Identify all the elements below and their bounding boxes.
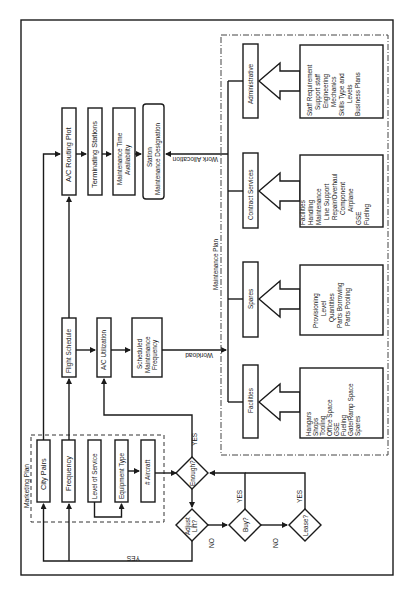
node-terminating-stations: Terminating Stations xyxy=(88,108,102,195)
svg-text:Scheduled: Scheduled xyxy=(136,338,143,369)
svg-text:Business Plans: Business Plans xyxy=(354,72,361,116)
svg-text:Terminating Stations: Terminating Stations xyxy=(90,121,99,188)
svg-text:Equipment Type: Equipment Type xyxy=(118,452,126,499)
node-level-of-service: Level of Service xyxy=(88,440,101,502)
svg-text:Level of Service: Level of Service xyxy=(91,453,98,499)
svg-text:Lift?: Lift? xyxy=(191,519,198,532)
svg-text:Contract Services: Contract Services xyxy=(247,170,254,220)
decision-lease: Lease? xyxy=(289,509,321,541)
node-ac-routing-plot: A/C Routing Plot xyxy=(62,108,76,195)
node-city-pairs: City Pairs xyxy=(37,440,50,502)
decision-adjust-lift: Adjust Lift? xyxy=(176,509,208,541)
svg-text:A/C Routing Plot: A/C Routing Plot xyxy=(64,127,73,182)
svg-text:Quantities: Quantities xyxy=(328,293,336,322)
yes-label-buy: YES xyxy=(236,489,243,503)
node-equipment-type: Equipment Type xyxy=(115,440,128,502)
svg-text:Staff Requirement: Staff Requirement xyxy=(306,64,314,116)
svg-text:Frequency: Frequency xyxy=(64,456,73,491)
svg-text:Maintenance Time: Maintenance Time xyxy=(116,132,123,185)
svg-text:GSE: GSE xyxy=(333,423,340,437)
decision-enough: Enough? xyxy=(176,457,208,489)
svg-text:Maintenance: Maintenance xyxy=(144,336,151,373)
svg-text:Spares: Spares xyxy=(354,416,362,436)
yes-label-lease: YES xyxy=(296,489,303,503)
workload-label: Workload xyxy=(185,352,213,359)
svg-text:Flight Schedule: Flight Schedule xyxy=(65,329,73,373)
svg-text:Facilities: Facilities xyxy=(299,200,306,225)
flow-diagram: Marketing Plan City Pairs Frequency Leve… xyxy=(0,0,412,593)
marketing-plan-label: Marketing Plan xyxy=(23,464,31,508)
node-flight-schedule: Flight Schedule xyxy=(62,318,76,377)
decision-buy: Buy? xyxy=(229,509,261,541)
svg-text:Airplane: Airplane xyxy=(347,188,355,212)
yes-label-adjust: YES xyxy=(126,555,140,562)
svg-text:Enough?: Enough? xyxy=(189,460,197,486)
node-frequency: Frequency xyxy=(62,440,75,502)
category-administrative: Administrative Staff Requirement Support… xyxy=(243,44,383,118)
node-ac-utilization: A/C Utilization xyxy=(97,318,111,377)
node-maintenance-time-availability: Maintenance Time Availability xyxy=(113,108,135,195)
svg-text:Level: Level xyxy=(320,301,327,316)
svg-text:GSE: GSE xyxy=(355,212,362,226)
node-scheduled-maintenance-frequency: Scheduled Maintenance Frequency xyxy=(132,318,162,377)
svg-text:City Pairs: City Pairs xyxy=(39,458,48,490)
svg-text:Buy?: Buy? xyxy=(242,517,250,532)
svg-text:Station: Station xyxy=(146,147,153,167)
category-contract-services: Contract Services Facilities Handling Ma… xyxy=(243,153,383,228)
no-label-buy: NO xyxy=(272,538,279,548)
svg-text:Lease?: Lease? xyxy=(302,515,309,536)
svg-text:Provisioning: Provisioning xyxy=(312,293,320,328)
maintenance-plan-label: Maintenance Plan xyxy=(212,238,219,290)
work-allocation-label: Work Allocation xyxy=(172,156,218,163)
svg-text:Facilities: Facilities xyxy=(247,388,254,413)
svg-text:Administrative: Administrative xyxy=(247,63,254,104)
svg-text:Repair/Overhaul: Repair/Overhaul xyxy=(331,173,339,220)
svg-text:Component: Component xyxy=(339,182,347,215)
svg-text:Maintenance Designation: Maintenance Designation xyxy=(154,122,162,195)
svg-text:Line Support: Line Support xyxy=(323,184,331,220)
svg-text:Spares: Spares xyxy=(247,289,255,309)
svg-text:Frequency: Frequency xyxy=(151,339,159,370)
no-label-adjust: NO xyxy=(208,538,215,548)
svg-text:Support staff: Support staff xyxy=(314,74,322,110)
node-station-maintenance-designation: Station Maintenance Designation xyxy=(143,104,164,199)
svg-text:Maintenance: Maintenance xyxy=(315,188,322,225)
svg-text:Availability: Availability xyxy=(124,144,132,175)
svg-text:Parts Pooling: Parts Pooling xyxy=(344,288,352,326)
svg-text:Fueling: Fueling xyxy=(363,204,371,225)
svg-text:A/C Utilization: A/C Utilization xyxy=(100,329,107,370)
category-facilities: Facilities Hangars Shops Tooling Office … xyxy=(243,365,383,438)
svg-text:Skills Type and: Skills Type and xyxy=(338,73,346,116)
svg-text:Handling: Handling xyxy=(307,199,315,225)
node-num-aircraft: # Aircraft xyxy=(141,440,155,502)
svg-text:Mechanics: Mechanics xyxy=(330,76,337,107)
svg-text:# Aircraft: # Aircraft xyxy=(144,460,151,485)
category-spares: Spares Provisioning Level Quantities Par… xyxy=(243,262,383,337)
svg-text:Engineering: Engineering xyxy=(322,73,330,108)
svg-text:Levels: Levels xyxy=(346,85,353,103)
yes-label-enough: YES xyxy=(191,432,198,446)
svg-text:Parts Borrowing: Parts Borrowing xyxy=(336,282,344,328)
